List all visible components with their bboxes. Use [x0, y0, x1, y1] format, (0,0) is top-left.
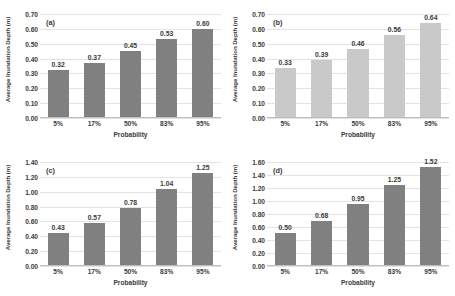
- bar[interactable]: [120, 51, 141, 117]
- y-tick-label: 0.60: [25, 218, 38, 225]
- bar-value-label: 0.57: [76, 214, 112, 221]
- panel-tag: (c): [46, 166, 55, 175]
- bar[interactable]: [384, 35, 405, 117]
- bar[interactable]: [420, 23, 441, 117]
- x-tick-label: 17%: [303, 120, 339, 127]
- bar[interactable]: [48, 70, 69, 117]
- bar-value-label: 0.95: [340, 195, 376, 202]
- bar[interactable]: [84, 63, 105, 117]
- x-axis-ticks: 5%17%50%83%95%: [40, 120, 221, 127]
- bar-value-label: 0.45: [112, 42, 148, 49]
- x-tick-label: 83%: [149, 268, 185, 275]
- x-axis-line: [267, 265, 449, 266]
- x-axis-title: Probability: [267, 279, 449, 286]
- y-tick-label: 0.60: [25, 25, 38, 32]
- chart-panel-d: Average Inundation Depth (m)1.601.401.20…: [227, 148, 455, 296]
- bar[interactable]: [120, 208, 141, 265]
- bar-group: 0.68: [303, 162, 339, 265]
- bar-group: 0.39: [303, 14, 339, 117]
- panel-tag: (b): [273, 18, 282, 27]
- y-axis-title-text: Average Inundation Depth (m): [232, 164, 239, 249]
- bar-group: 1.25: [185, 162, 221, 265]
- bar-group: 1.04: [149, 162, 185, 265]
- bar-value-label: 1.52: [413, 158, 449, 165]
- y-tick-label: 0.20: [25, 248, 38, 255]
- x-axis-title: Probability: [40, 131, 221, 138]
- bar[interactable]: [192, 29, 213, 117]
- gridline: [267, 118, 449, 119]
- bar-group: 1.25: [376, 162, 412, 265]
- y-tick-label: 0.00: [252, 115, 265, 122]
- bar-value-label: 0.53: [149, 30, 185, 37]
- x-axis-line: [40, 265, 221, 266]
- y-tick-label: 0.60: [252, 224, 265, 231]
- y-tick-label: 0.20: [25, 85, 38, 92]
- y-tick-label: 0.40: [25, 233, 38, 240]
- x-tick-label: 50%: [340, 268, 376, 275]
- x-tick-label: 50%: [112, 120, 148, 127]
- bar-value-label: 0.37: [76, 54, 112, 61]
- bar[interactable]: [84, 223, 105, 265]
- x-tick-label: 17%: [76, 120, 112, 127]
- x-tick-label: 5%: [267, 268, 303, 275]
- bar[interactable]: [275, 233, 296, 265]
- y-tick-label: 0.00: [25, 263, 38, 270]
- bar[interactable]: [420, 167, 441, 265]
- bar-series: 0.500.680.951.251.52: [267, 162, 449, 265]
- x-tick-label: 5%: [40, 120, 76, 127]
- bar-group: 0.50: [267, 162, 303, 265]
- y-tick-label: 0.50: [25, 40, 38, 47]
- y-tick-label: 0.20: [252, 250, 265, 257]
- y-tick-label: 0.10: [25, 100, 38, 107]
- bar-value-label: 0.32: [40, 61, 76, 68]
- x-axis-title: Probability: [40, 279, 221, 286]
- y-axis-ticks: 1.601.401.201.000.800.600.400.200.00: [239, 162, 265, 266]
- x-axis-line: [267, 117, 449, 118]
- x-tick-label: 95%: [185, 120, 221, 127]
- bar-value-label: 0.56: [376, 26, 412, 33]
- y-tick-label: 0.30: [252, 70, 265, 77]
- bar-value-label: 0.39: [303, 51, 339, 58]
- x-tick-label: 95%: [413, 120, 449, 127]
- bar-group: 0.60: [185, 14, 221, 117]
- y-axis-ticks: 0.700.600.500.400.300.200.100.00: [239, 14, 265, 118]
- figure-panel-grid: Average Inundation Depth (m)0.700.600.50…: [0, 0, 455, 296]
- x-tick-label: 5%: [40, 268, 76, 275]
- y-tick-label: 0.50: [252, 40, 265, 47]
- bar[interactable]: [311, 60, 332, 117]
- plot-area: 0.320.370.450.530.60: [40, 14, 221, 118]
- plot-area: 0.330.390.460.560.64: [267, 14, 449, 118]
- x-axis-ticks: 5%17%50%83%95%: [267, 268, 449, 275]
- y-tick-label: 0.80: [25, 203, 38, 210]
- bar-value-label: 0.68: [303, 212, 339, 219]
- x-axis-line: [40, 117, 221, 118]
- bar[interactable]: [347, 204, 368, 265]
- x-tick-label: 50%: [340, 120, 376, 127]
- bar[interactable]: [156, 39, 177, 117]
- bar-group: 0.64: [413, 14, 449, 117]
- bar[interactable]: [311, 221, 332, 265]
- y-tick-label: 0.60: [252, 25, 265, 32]
- bar-group: 0.43: [40, 162, 76, 265]
- bar-group: 0.57: [76, 162, 112, 265]
- bar[interactable]: [384, 185, 405, 265]
- x-tick-label: 17%: [303, 268, 339, 275]
- chart-panel-c: Average Inundation Depth (m)1.401.201.00…: [0, 148, 227, 296]
- bar[interactable]: [156, 189, 177, 266]
- x-tick-label: 83%: [376, 268, 412, 275]
- y-tick-label: 0.30: [25, 70, 38, 77]
- bar-group: 0.33: [267, 14, 303, 117]
- bar-value-label: 1.25: [376, 176, 412, 183]
- y-tick-label: 1.00: [25, 188, 38, 195]
- bar[interactable]: [275, 68, 296, 117]
- bar[interactable]: [48, 233, 69, 265]
- x-axis-title: Probability: [267, 131, 449, 138]
- y-tick-label: 1.60: [252, 159, 265, 166]
- bar-value-label: 1.04: [149, 180, 185, 187]
- y-tick-label: 0.80: [252, 211, 265, 218]
- y-tick-label: 0.00: [252, 263, 265, 270]
- y-tick-label: 0.70: [25, 11, 38, 18]
- bar[interactable]: [192, 173, 213, 265]
- bar[interactable]: [347, 49, 368, 117]
- bar-group: 0.46: [340, 14, 376, 117]
